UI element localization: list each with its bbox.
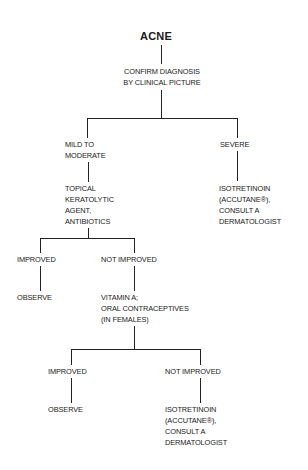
node-not-improved-1: NOT IMPROVED bbox=[101, 254, 157, 265]
branch-line bbox=[87, 118, 238, 119]
connector-line bbox=[161, 90, 162, 118]
connector-line bbox=[134, 326, 135, 349]
connector-line bbox=[237, 151, 238, 181]
node-vitamin-a: VITAMIN A; ORAL CONTRACEPTIVES (IN FEMAL… bbox=[101, 292, 189, 325]
node-mild-to-moderate: MILD TO MODERATE bbox=[65, 139, 106, 161]
branch-line bbox=[40, 238, 135, 239]
node-isotretinoin-final: ISOTRETINOIN (ACCUTANE®), CONSULT A DERM… bbox=[165, 404, 227, 448]
connector-line bbox=[40, 238, 41, 253]
node-not-improved-2: NOT IMPROVED bbox=[165, 366, 221, 377]
connector-line bbox=[134, 266, 135, 291]
connector-line bbox=[87, 118, 88, 138]
connector-line bbox=[134, 238, 135, 253]
node-observe-1: OBSERVE bbox=[17, 292, 52, 303]
connector-line bbox=[200, 378, 201, 403]
connector-line bbox=[161, 45, 162, 64]
connector-line bbox=[237, 118, 238, 138]
node-severe: SEVERE bbox=[220, 139, 249, 150]
diagram-title: ACNE bbox=[140, 30, 172, 42]
node-observe-2: OBSERVE bbox=[48, 404, 83, 415]
connector-line bbox=[88, 228, 89, 238]
connector-line bbox=[40, 266, 41, 291]
node-topical-keratolytic: TOPICAL KERATOLYTIC AGENT, ANTIBIOTICS bbox=[65, 183, 114, 227]
connector-line bbox=[71, 349, 72, 365]
connector-line bbox=[71, 378, 72, 403]
node-confirm-diagnosis: CONFIRM DIAGNOSIS BY CLINICAL PICTURE bbox=[112, 66, 212, 88]
connector-line bbox=[88, 162, 89, 182]
connector-line bbox=[200, 349, 201, 365]
node-isotretinoin-severe: ISOTRETINOIN (ACCUTANE®), CONSULT A DERM… bbox=[219, 183, 281, 227]
node-improved-1: IMPROVED bbox=[17, 254, 56, 265]
branch-line bbox=[71, 349, 201, 350]
node-improved-2: IMPROVED bbox=[48, 366, 87, 377]
